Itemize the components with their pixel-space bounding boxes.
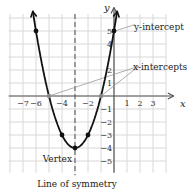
y-tick-label: 5 bbox=[107, 27, 112, 36]
x-intercept-point bbox=[47, 94, 51, 98]
pointer-line bbox=[115, 25, 135, 32]
parabola-diagram: −7−6−4−21235421−1−2−3−4−5y-interceptx-in… bbox=[0, 0, 191, 194]
x-tick-label: −7 bbox=[17, 99, 29, 108]
y-tick-label: −3 bbox=[100, 131, 112, 140]
x-intercept-point bbox=[99, 94, 103, 98]
x-tick-label: 1 bbox=[124, 99, 129, 108]
y-tick-label: −2 bbox=[100, 118, 112, 127]
x-intercepts-label: x-intercepts bbox=[133, 62, 188, 72]
y-tick-label: −5 bbox=[100, 157, 112, 166]
x-tick-label: −6 bbox=[30, 99, 42, 108]
y-axis-label: y bbox=[103, 2, 110, 13]
y-tick-label: 1 bbox=[107, 79, 112, 88]
y-tick-label: −4 bbox=[100, 144, 112, 153]
x-tick-label: 2 bbox=[137, 99, 142, 108]
data-point bbox=[112, 29, 117, 34]
x-axis-label: x bbox=[180, 98, 186, 109]
data-point bbox=[86, 133, 91, 138]
line-of-symmetry-label: Line of symmetry bbox=[37, 179, 117, 189]
y-intercept-label: y-intercept bbox=[133, 22, 184, 32]
x-tick-label: −4 bbox=[56, 99, 68, 108]
data-point bbox=[34, 29, 39, 34]
data-point bbox=[60, 133, 65, 138]
vertex-label: Vertex bbox=[42, 154, 72, 164]
y-tick-label: −1 bbox=[100, 105, 112, 114]
x-tick-label: 3 bbox=[150, 99, 155, 108]
data-point bbox=[73, 146, 78, 151]
x-tick-label: −2 bbox=[82, 99, 94, 108]
